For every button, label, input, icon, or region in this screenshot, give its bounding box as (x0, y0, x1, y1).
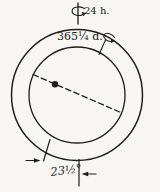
diagram-canvas: 24 h. 365¼ d. 23½° (0, 0, 160, 192)
sun-dot (52, 81, 58, 87)
rotation-period-label: 24 h. (84, 5, 110, 16)
earth-motions-diagram: 24 h. 365¼ d. 23½° (0, 0, 160, 192)
revolution-period-label: 365¼ d. (57, 30, 103, 43)
